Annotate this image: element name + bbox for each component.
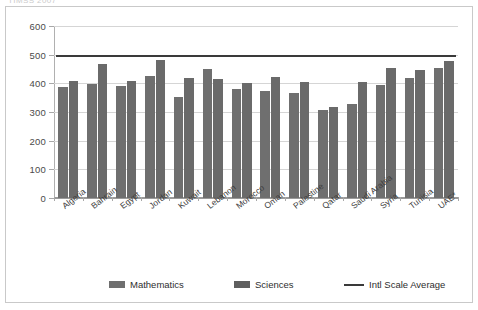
intl-scale-average-line [56,55,456,57]
bar-sciences-morocco [242,83,252,198]
legend-swatch-icon [109,281,125,288]
bar-sciences-bahrain [98,64,108,198]
gridline-600 [54,26,458,27]
y-tick-label: 600 [12,21,46,32]
bar-sciences-lebanon [213,79,223,198]
x-tick-mark [198,197,199,201]
x-tick-mark [256,197,257,201]
x-tick-mark [400,197,401,201]
legend-item-mathematics[interactable]: Mathematics [109,279,184,290]
bar-mathematics-jordan [145,76,155,198]
bar-sciences-algeria [69,81,79,198]
bar-mathematics-saudi-arabia [347,104,357,198]
chart-figure-frame: 0100200300400500600 MathematicsSciencesI… [5,6,473,303]
bar-sciences-kuwait [184,78,194,198]
bar-sciences-qatar [329,107,339,198]
x-tick-mark [227,197,228,201]
y-tick-mark [49,169,54,170]
bar-mathematics-tunisia [405,78,415,198]
legend-label: Mathematics [130,279,184,290]
x-tick-mark [458,197,459,201]
bar-mathematics-bahrain [87,84,97,198]
y-tick-mark [49,83,54,84]
gridline-400 [54,83,458,84]
bar-sciences-saudi-arabia [358,82,368,198]
gridline-300 [54,112,458,113]
chart-page: TIMSS 2007 0100200300400500600 Mathemati… [0,0,478,310]
bar-sciences-oman [271,77,281,198]
legend-label: Sciences [255,279,294,290]
bar-mathematics-kuwait [174,97,184,198]
y-tick-label: 0 [12,193,46,204]
x-tick-mark [371,197,372,201]
x-tick-mark [54,197,55,201]
y-tick-mark [49,26,54,27]
y-tick-mark [49,55,54,56]
y-tick-label: 500 [12,49,46,60]
x-tick-mark [169,197,170,201]
y-tick-mark [49,112,54,113]
bar-mathematics-morocco [232,89,242,198]
y-tick-label: 100 [12,164,46,175]
y-tick-label: 200 [12,135,46,146]
bar-sciences-jordan [156,60,166,198]
bar-mathematics-egypt [116,86,126,198]
bar-sciences-uae- [444,61,454,198]
bar-mathematics-lebanon [203,69,213,198]
x-tick-mark [285,197,286,201]
x-tick-mark [83,197,84,201]
bar-mathematics-uae- [434,68,444,198]
bar-sciences-egypt [127,81,137,198]
bar-mathematics-palestine [289,93,299,198]
gridline-100 [54,169,458,170]
chart-legend: MathematicsSciencesIntl Scale Average [54,279,458,293]
plot-area [54,26,458,198]
bar-mathematics-algeria [58,87,68,198]
legend-item-sciences[interactable]: Sciences [234,279,294,290]
bar-sciences-tunisia [415,70,425,198]
y-tick-label: 400 [12,78,46,89]
bar-sciences-palestine [300,82,310,198]
clipped-caption-text: TIMSS 2007 [8,0,56,3]
y-tick-label: 300 [12,107,46,118]
x-tick-mark [112,197,113,201]
bar-mathematics-oman [260,91,270,198]
legend-swatch-icon [344,284,364,286]
y-axis-labels: 0100200300400500600 [10,26,46,198]
legend-label: Intl Scale Average [369,279,445,290]
y-tick-mark [49,141,54,142]
x-tick-mark [141,197,142,201]
x-tick-mark [314,197,315,201]
legend-item-intl-scale-average[interactable]: Intl Scale Average [344,279,445,290]
gridline-200 [54,141,458,142]
legend-swatch-icon [234,281,250,288]
x-tick-mark [429,197,430,201]
x-tick-mark [343,197,344,201]
